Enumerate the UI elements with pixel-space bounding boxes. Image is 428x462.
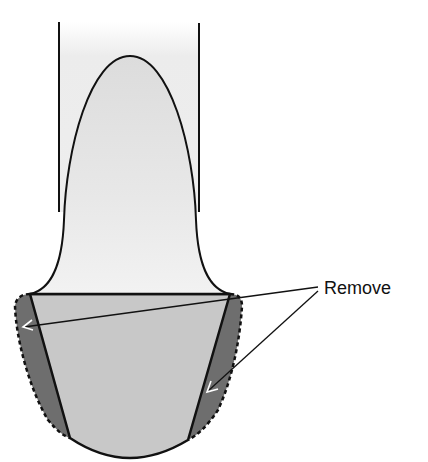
- remove-label: Remove: [324, 278, 391, 298]
- core-region: [30, 294, 230, 458]
- diagram-canvas: Remove: [0, 0, 428, 462]
